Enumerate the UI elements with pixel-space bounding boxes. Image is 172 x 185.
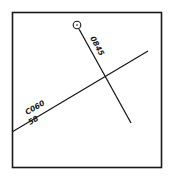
- diagram-canvas: 0845 C060 58: [0, 0, 172, 185]
- origin-dot: [76, 24, 78, 26]
- label-0845: 0845: [88, 35, 106, 58]
- frame-border: [13, 13, 162, 168]
